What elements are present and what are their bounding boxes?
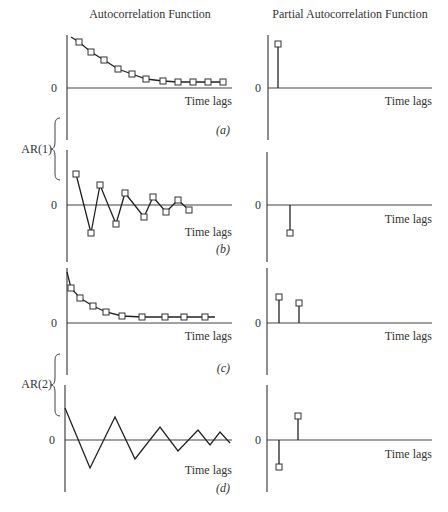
pacf-header: Partial Autocorrelation Function — [272, 7, 427, 21]
zero-label: 0 — [51, 316, 57, 330]
brace-icon — [51, 118, 60, 416]
x-axis-label: Time lags — [385, 329, 433, 343]
panel-label-b: (b) — [216, 242, 230, 256]
x-axis-label: Time lags — [185, 463, 233, 477]
zero-label: 0 — [255, 433, 261, 447]
zero-label: 0 — [255, 316, 261, 330]
zero-label: 0 — [49, 433, 55, 447]
acf-pacf-figure: Autocorrelation Function Partial Autocor… — [0, 0, 448, 512]
zero-label: 0 — [255, 198, 261, 212]
zero-label: 0 — [255, 81, 261, 95]
x-axis-label: Time lags — [185, 225, 233, 239]
group-label-ar1: AR(1) — [21, 142, 52, 156]
panel-label-a: (a) — [216, 123, 230, 137]
x-axis-label: Time lags — [185, 329, 233, 343]
zero-label: 0 — [51, 198, 57, 212]
panel-label-d: (d) — [216, 481, 230, 495]
x-axis-label: Time lags — [385, 212, 433, 226]
group-label-ar2: AR(2) — [21, 377, 52, 391]
x-axis-label: Time lags — [385, 94, 433, 108]
x-axis-label: Time lags — [385, 447, 433, 461]
x-axis-label: Time lags — [185, 94, 233, 108]
zero-label: 0 — [51, 81, 57, 95]
panel-label-c: (c) — [217, 361, 230, 375]
acf-header: Autocorrelation Function — [89, 7, 211, 21]
